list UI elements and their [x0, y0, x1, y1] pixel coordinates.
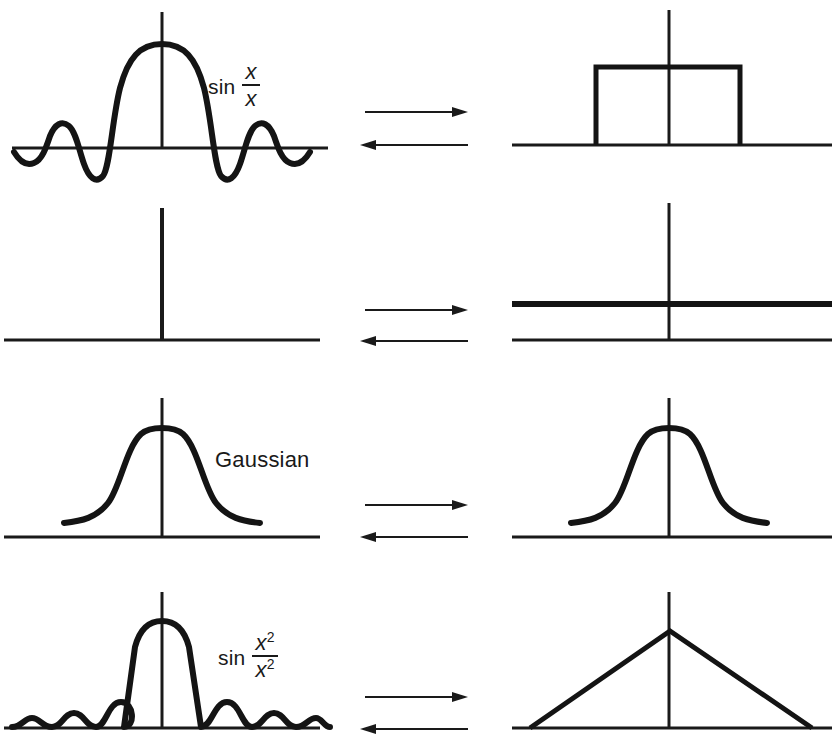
fourier-transform-pairs-figure: sin x x Gaussian sin x2 x2	[0, 0, 832, 745]
row-4-arrows	[360, 692, 468, 734]
row-1-right-panel	[512, 10, 832, 145]
forward-arrow-head-row-2	[452, 305, 468, 315]
sinc-label: sin x x	[208, 62, 260, 111]
sinc-squared-label: sin x2 x2	[218, 633, 278, 682]
row-3-right-panel	[512, 398, 832, 537]
triangle-pulse-curve	[530, 631, 812, 728]
sinc-squared-curve	[12, 621, 330, 727]
row-2-right-panel	[512, 203, 832, 340]
sinc-squared-label-numerator: x2	[252, 632, 277, 657]
sinc-squared-label-fraction: x2 x2	[252, 632, 277, 681]
figure-canvas	[0, 0, 832, 745]
row-1-left-panel	[12, 12, 328, 180]
inverse-arrow-head-row-1	[360, 140, 376, 150]
forward-arrow-head-row-4	[452, 692, 468, 702]
sinc-squared-label-denominator: x2	[252, 657, 277, 681]
forward-arrow-head-row-3	[452, 500, 468, 510]
sinc-label-numerator: x	[242, 61, 259, 86]
sinc-squared-denominator-exponent: 2	[267, 656, 275, 672]
row-2-arrows	[360, 305, 468, 346]
sinc-squared-numerator-exponent: 2	[267, 629, 275, 645]
row-4-right-panel	[512, 592, 832, 728]
row-1-arrows	[360, 107, 468, 150]
inverse-arrow-head-row-2	[360, 336, 376, 346]
row-3-arrows	[360, 500, 468, 542]
sinc-label-denominator: x	[242, 86, 259, 110]
inverse-arrow-head-row-4	[360, 724, 376, 734]
row-2-left-panel	[4, 208, 320, 340]
sinc-label-function: sin	[208, 76, 235, 97]
sinc-label-fraction: x x	[242, 61, 259, 110]
gaussian-label: Gaussian	[215, 449, 310, 471]
row-4-left-panel	[4, 592, 330, 728]
sinc-squared-label-function: sin	[218, 647, 245, 668]
forward-arrow-head-row-1	[452, 107, 468, 117]
inverse-arrow-head-row-3	[360, 532, 376, 542]
